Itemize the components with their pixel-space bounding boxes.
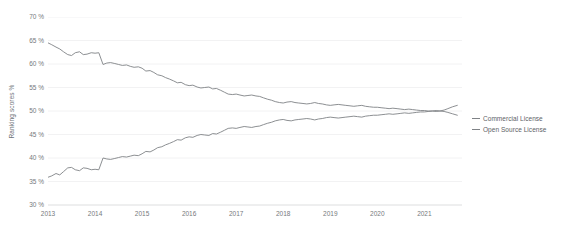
x-axis-tick-label: 2017 xyxy=(229,210,243,217)
chart-legend: Commercial License Open Source License xyxy=(472,113,558,135)
x-axis-tick-label: 2013 xyxy=(41,210,55,217)
legend-item-label: Open Source License xyxy=(483,126,546,133)
legend-line-icon xyxy=(472,118,480,119)
legend-line-icon xyxy=(472,129,480,130)
x-axis-tick-label: 2014 xyxy=(88,210,102,217)
x-axis-tick-label: 2019 xyxy=(323,210,337,217)
x-axis-tick-label: 2021 xyxy=(417,210,431,217)
x-axis-tick-label: 2015 xyxy=(135,210,149,217)
legend-item[interactable]: Commercial License xyxy=(472,113,558,123)
legend-item-label: Commercial License xyxy=(483,115,543,122)
x-axis-tick-label: 2016 xyxy=(182,210,196,217)
line-chart: Ranking scores % 70 %65 %60 %55 %50 %45 … xyxy=(0,0,561,240)
x-axis-tick-label: 2018 xyxy=(276,210,290,217)
legend-item[interactable]: Open Source License xyxy=(472,124,558,134)
x-axis-tick-label: 2020 xyxy=(370,210,384,217)
